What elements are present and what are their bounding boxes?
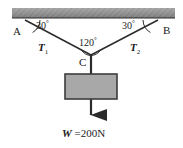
weight-unit: N: [97, 127, 105, 139]
degree-symbol-a: °: [46, 19, 49, 27]
hanging-block: [65, 74, 117, 99]
ceiling-bar: [12, 8, 175, 18]
force-diagram: A B C 30° 30° 120° T1 T2 W =200N: [0, 0, 183, 148]
weight-label: W =200N: [62, 128, 105, 139]
weight-value: 200: [81, 127, 98, 139]
angle-label-b: 30°: [122, 20, 135, 31]
angle-label-b-value: 30: [122, 20, 132, 31]
tension-symbol-t1: T: [38, 41, 45, 53]
angle-label-a: 30°: [36, 20, 49, 31]
point-label-b: B: [163, 25, 170, 36]
tension-subscript-t1: 1: [45, 48, 49, 56]
angle-label-c-value: 120: [79, 37, 94, 48]
degree-symbol-c: °: [94, 36, 97, 44]
point-label-a: A: [13, 26, 21, 37]
angle-label-a-value: 30: [36, 20, 46, 31]
diagram-canvas: [0, 0, 183, 148]
tension-symbol-t2: T: [130, 41, 137, 53]
point-label-c: C: [79, 57, 86, 68]
angle-label-c: 120°: [79, 37, 97, 48]
degree-symbol-b: °: [132, 19, 135, 27]
weight-symbol: W: [62, 127, 72, 139]
tension-subscript-t2: 2: [137, 48, 141, 56]
tension-label-t1: T1: [38, 42, 48, 56]
tension-label-t2: T2: [130, 42, 140, 56]
